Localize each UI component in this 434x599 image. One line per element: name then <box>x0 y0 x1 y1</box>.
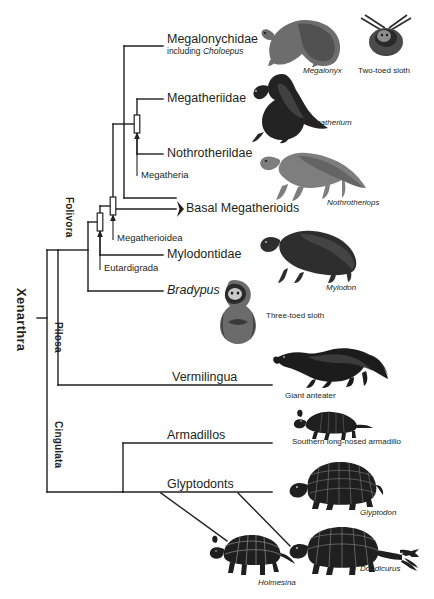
illustration-megatherium <box>250 66 330 144</box>
caption-two-toed-sloth: Two-toed sloth <box>358 66 410 75</box>
root-label-xenarthra: Xenarthra <box>14 288 28 351</box>
node-markers <box>97 115 140 270</box>
tip-sub-genus: Choloepus <box>203 46 244 56</box>
chevron-icon <box>177 201 184 217</box>
tip-label-armadillos: Armadillos <box>167 429 225 442</box>
caption-southern-long-nosed-armadillo: Southern long-nosed armadillo <box>292 437 401 446</box>
illustration-nothrotheriops <box>258 142 370 204</box>
tip-label-vermilingua: Vermilingua <box>172 371 237 384</box>
caption-giant-anteater: Giant anteater <box>285 391 336 400</box>
phylogenetic-tree-figure: Xenarthra Folivora Pilosa Cingulata Mega… <box>0 0 434 599</box>
illustration-southern-long-nosed-armadillo <box>292 405 374 441</box>
node-marker-eutardigrada <box>97 213 103 270</box>
caption-glyptodon: Glyptodon <box>360 508 396 517</box>
caption-megatherium: Megatherium <box>305 118 352 127</box>
clade-label-pilosa: Pilosa <box>52 322 63 353</box>
node-marker-megatheria <box>134 115 140 176</box>
caption-holmesina: Holmesina <box>258 578 296 587</box>
illustration-three-toed-sloth <box>212 278 264 346</box>
clade-label-folivora: Folivora <box>63 197 74 238</box>
tip-label-nothrotherildae: Nothrotherildae <box>167 147 252 160</box>
tip-sub-prefix: including <box>167 46 203 56</box>
caption-nothrotheriops: Nothrotheriops <box>327 198 379 207</box>
node-label-megatherioidea: Megatherioidea <box>117 233 183 243</box>
illustration-mylodon <box>256 222 362 284</box>
node-marker-megatherioidea <box>110 197 116 240</box>
caption-mylodon: Mylodon <box>326 283 356 292</box>
tip-label-glyptodonts: Glyptodonts <box>167 478 234 491</box>
caption-three-toed-sloth: Three-toed sloth <box>266 311 324 320</box>
tip-sublabel-megalonychidae: including Choloepus <box>167 47 258 56</box>
tip-label-mylodontidae: Mylodontidae <box>167 248 241 261</box>
node-label-eutardigrada: Eutardigrada <box>104 263 158 273</box>
illustration-megalonyx <box>258 10 344 68</box>
illustration-holmesina <box>208 529 296 577</box>
clade-label-cingulata: Cingulata <box>52 421 63 468</box>
node-label-megatheria: Megatheria <box>141 170 189 180</box>
caption-doedicurus: Doedicurus <box>360 564 400 573</box>
tip-megalonychidae: Megalonychidae including Choloepus <box>167 33 258 56</box>
tip-label-megatheriidae: Megatheriidae <box>167 92 246 105</box>
illustration-two-toed-sloth <box>355 12 417 64</box>
tip-label-megalonychidae: Megalonychidae <box>167 33 258 46</box>
illustration-giant-anteater <box>272 337 390 389</box>
illustration-glyptodon <box>288 457 384 511</box>
